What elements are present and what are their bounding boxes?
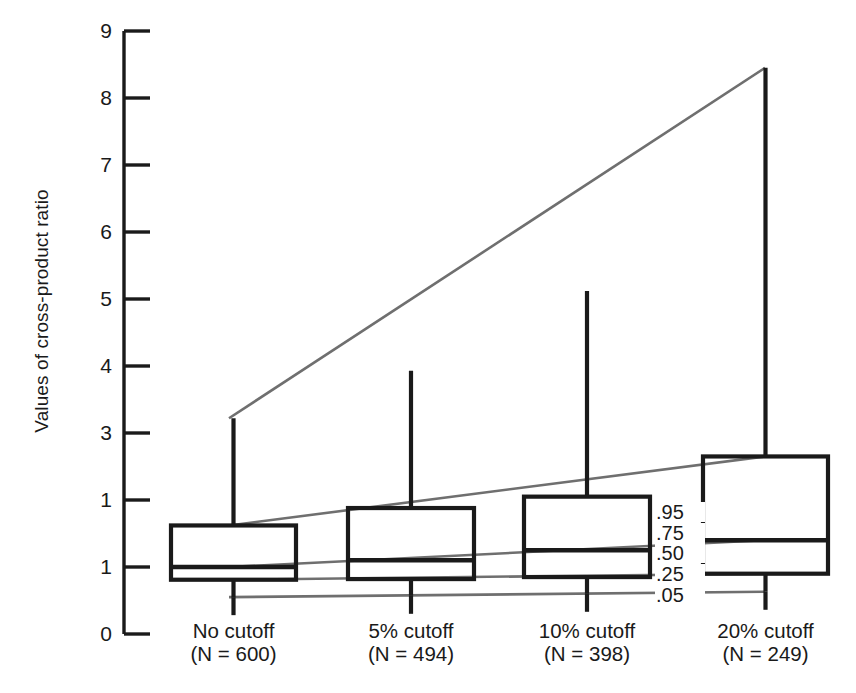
box-plot-series bbox=[171, 68, 828, 597]
x-tick-label-3: 10% cutoff(N = 398) bbox=[492, 620, 682, 666]
y-axis bbox=[124, 31, 150, 634]
percentile-leader-p95 bbox=[229, 68, 765, 418]
x-tick-label-2: 5% cutoff(N = 494) bbox=[316, 620, 506, 666]
y-tick-label: 0 bbox=[72, 623, 112, 644]
box-plot-2 bbox=[348, 371, 474, 596]
box-iqr bbox=[524, 497, 650, 577]
box-plot-figure: Values of cross-product ratio 0113456789… bbox=[0, 0, 856, 693]
y-tick-label: 4 bbox=[72, 355, 112, 376]
y-tick-label: 1 bbox=[72, 556, 112, 577]
percentile-label-p75: .75 bbox=[655, 523, 705, 543]
category-name: 20% cutoff bbox=[717, 619, 814, 642]
y-tick-label: 5 bbox=[72, 288, 112, 309]
box-plot-1 bbox=[171, 418, 296, 597]
y-tick-label: 1 bbox=[72, 489, 112, 510]
category-count: (N = 398) bbox=[492, 643, 682, 666]
x-tick-label-1: No cutoff(N = 600) bbox=[139, 620, 329, 666]
category-count: (N = 494) bbox=[316, 643, 506, 666]
category-name: 5% cutoff bbox=[368, 619, 453, 642]
y-tick-label: 9 bbox=[72, 20, 112, 41]
box-iqr bbox=[703, 456, 828, 573]
y-tick-label: 6 bbox=[72, 221, 112, 242]
category-count: (N = 600) bbox=[139, 643, 329, 666]
category-count: (N = 249) bbox=[671, 643, 856, 666]
percentile-label-p50: .50 bbox=[655, 543, 705, 563]
plot-canvas bbox=[0, 0, 856, 693]
x-tick-label-4: 20% cutoff(N = 249) bbox=[671, 620, 856, 666]
box-plot-3 bbox=[524, 291, 650, 594]
percentile-label-p05: .05 bbox=[655, 585, 705, 605]
box-iqr bbox=[171, 525, 296, 579]
percentile-label-p25: .25 bbox=[655, 564, 705, 584]
box-iqr bbox=[348, 508, 474, 579]
y-tick-label: 8 bbox=[72, 87, 112, 108]
category-name: No cutoff bbox=[193, 619, 275, 642]
percentile-label-p95: .95 bbox=[655, 502, 705, 522]
y-tick-label: 3 bbox=[72, 422, 112, 443]
category-name: 10% cutoff bbox=[539, 619, 636, 642]
y-tick-label: 7 bbox=[72, 154, 112, 175]
box-plot-4 bbox=[703, 68, 828, 592]
